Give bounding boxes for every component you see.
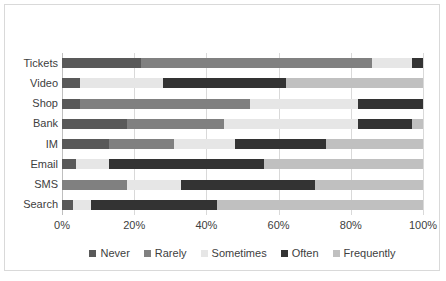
legend-label: Frequently [344, 247, 396, 259]
bar-segment[interactable] [264, 159, 423, 169]
bar-row[interactable] [62, 180, 423, 190]
x-axis-tick-label: 80% [340, 219, 362, 231]
bar-segment[interactable] [109, 139, 174, 149]
gridline-100 [423, 53, 424, 215]
y-axis-label: IM [9, 139, 58, 150]
legend-item[interactable]: Sometimes [201, 247, 267, 259]
y-axis-label: Search [9, 199, 58, 210]
bar-segment[interactable] [91, 200, 217, 210]
bar-segment[interactable] [80, 99, 250, 109]
chart-legend: NeverRarelySometimesOftenFrequently [62, 245, 423, 261]
y-axis-label: SMS [9, 179, 58, 190]
y-axis-label: Video [9, 78, 58, 89]
legend-item[interactable]: Often [281, 247, 319, 259]
x-axis-tick-label: 60% [268, 219, 290, 231]
x-axis-tick-label: 100% [409, 219, 437, 231]
legend-label: Never [100, 247, 129, 259]
plot-area [62, 53, 423, 215]
bar-segment[interactable] [62, 119, 127, 129]
bar-segment[interactable] [62, 139, 109, 149]
bar-segment[interactable] [217, 200, 423, 210]
bar-row[interactable] [62, 58, 423, 68]
legend-swatch-icon [201, 250, 208, 257]
bar-segment[interactable] [412, 58, 423, 68]
bar-segment[interactable] [235, 139, 325, 149]
bar-segment[interactable] [109, 159, 264, 169]
legend-swatch-icon [89, 250, 96, 257]
y-axis-label: Email [9, 159, 58, 170]
legend-label: Sometimes [212, 247, 267, 259]
bar-segment[interactable] [358, 99, 423, 109]
bar-row[interactable] [62, 119, 423, 129]
bar-segment[interactable] [372, 58, 412, 68]
bar-segment[interactable] [326, 139, 423, 149]
bar-row[interactable] [62, 159, 423, 169]
bar-segment[interactable] [163, 78, 286, 88]
bar-segment[interactable] [80, 78, 163, 88]
x-axis-tick-labels: 0%20%40%60%80%100% [62, 219, 423, 233]
x-axis-tick-label: 0% [54, 219, 70, 231]
bar-segment[interactable] [358, 119, 412, 129]
bar-segment[interactable] [181, 180, 315, 190]
bar-row[interactable] [62, 200, 423, 210]
bar-segment[interactable] [62, 200, 73, 210]
bar-segment[interactable] [224, 119, 358, 129]
y-axis-label: Bank [9, 118, 58, 129]
bar-segment[interactable] [73, 200, 91, 210]
bar-segment[interactable] [174, 139, 235, 149]
bar-segment[interactable] [250, 99, 358, 109]
bar-row[interactable] [62, 78, 423, 88]
y-axis-category-labels: TicketsVideoShopBankIMEmailSMSSearch [9, 53, 58, 215]
bar-segment[interactable] [127, 119, 224, 129]
legend-item[interactable]: Frequently [333, 247, 396, 259]
legend-label: Rarely [155, 247, 187, 259]
bar-row[interactable] [62, 139, 423, 149]
bar-segment[interactable] [62, 159, 76, 169]
y-axis-label: Shop [9, 98, 58, 109]
bar-segment[interactable] [62, 78, 80, 88]
legend-item[interactable]: Never [89, 247, 129, 259]
legend-item[interactable]: Rarely [144, 247, 187, 259]
bar-segment[interactable] [62, 99, 80, 109]
stacked-bars [62, 53, 423, 215]
y-axis-label: Tickets [9, 58, 58, 69]
bar-segment[interactable] [141, 58, 372, 68]
legend-swatch-icon [333, 250, 340, 257]
bar-segment[interactable] [315, 180, 423, 190]
x-axis-tick-label: 20% [123, 219, 145, 231]
legend-label: Often [292, 247, 319, 259]
legend-swatch-icon [281, 250, 288, 257]
bar-segment[interactable] [127, 180, 181, 190]
bar-segment[interactable] [62, 58, 141, 68]
bar-segment[interactable] [76, 159, 108, 169]
bar-segment[interactable] [286, 78, 423, 88]
legend-swatch-icon [144, 250, 151, 257]
bar-segment[interactable] [62, 180, 127, 190]
x-axis-tick-label: 40% [195, 219, 217, 231]
bar-segment[interactable] [412, 119, 423, 129]
chart-frame: TicketsVideoShopBankIMEmailSMSSearch 0%2… [4, 4, 440, 271]
bar-row[interactable] [62, 99, 423, 109]
